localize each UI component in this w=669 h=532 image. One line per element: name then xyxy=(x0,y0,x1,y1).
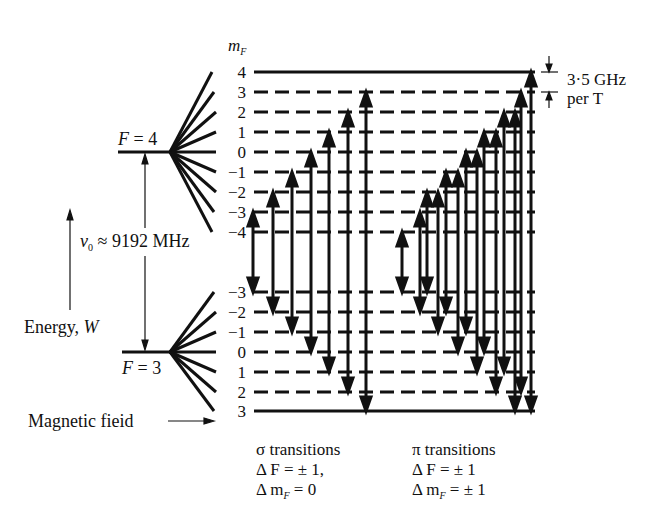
magnetic-field-label: Magnetic fieid xyxy=(28,412,133,430)
pi-transitions xyxy=(397,72,536,411)
mF-label: 1 xyxy=(216,364,246,381)
magnetic-field-arrow xyxy=(168,418,214,424)
lower-hyperfine-fan xyxy=(122,292,216,411)
mF-label: 3 xyxy=(216,84,246,101)
sigma-rule-dF: Δ F = ± 1, xyxy=(256,460,340,480)
mF-label: −2 xyxy=(216,304,246,321)
lower-F-label: F = 3 xyxy=(122,359,161,377)
dm-value: = 0 xyxy=(290,480,317,499)
F-symbol: F xyxy=(122,358,133,378)
mF-label: −1 xyxy=(216,324,246,341)
mF-label: −3 xyxy=(216,204,246,221)
hyperfine-frequency-label: ν0 ≈ 9192 MHz xyxy=(80,232,189,253)
dm-value: = ± 1 xyxy=(446,480,486,499)
sigma-rule-dm: Δ mF = 0 xyxy=(256,480,340,506)
upper-hyperfine-fan xyxy=(118,72,216,232)
mF-label: 4 xyxy=(216,64,246,81)
mF-label: 0 xyxy=(216,144,246,161)
F-symbol: F xyxy=(118,129,129,149)
scale-note-line1: 3·5 GHz xyxy=(567,70,626,89)
nu-symbol: ν xyxy=(80,231,88,251)
sigma-transitions xyxy=(248,92,371,411)
pi-rule-dF: Δ F = ± 1 xyxy=(412,460,496,480)
mF-header-subscript: F xyxy=(240,46,246,57)
scale-note-line2: per T xyxy=(567,89,626,108)
mF-label: 2 xyxy=(216,104,246,121)
energy-axis-arrow xyxy=(67,210,73,310)
dm-prefix: Δ m xyxy=(412,480,439,499)
mF-level-lines xyxy=(254,72,535,411)
energy-axis-label: Energy, W xyxy=(24,318,98,336)
pi-rule-dm: Δ mF = ± 1 xyxy=(412,480,496,506)
sigma-legend-title: σ transitions xyxy=(256,440,340,460)
mF-label: −2 xyxy=(216,184,246,201)
F-value: = 3 xyxy=(133,358,161,378)
mF-header: mF xyxy=(228,37,246,57)
mF-label: −1 xyxy=(216,164,246,181)
energy-label-text: Energy, xyxy=(24,317,83,337)
scale-bracket xyxy=(541,56,558,108)
mF-label: −4 xyxy=(216,224,246,241)
mF-label: −3 xyxy=(216,284,246,301)
mF-label: 0 xyxy=(216,344,246,361)
mF-label: 3 xyxy=(216,403,246,420)
mF-label: 1 xyxy=(216,124,246,141)
pi-legend: π transitions Δ F = ± 1 Δ mF = ± 1 xyxy=(412,440,496,506)
mF-label: 2 xyxy=(216,384,246,401)
F-value: = 4 xyxy=(129,129,157,149)
energy-symbol: W xyxy=(83,317,98,337)
mF-header-symbol: m xyxy=(228,36,240,55)
sigma-legend: σ transitions Δ F = ± 1, Δ mF = 0 xyxy=(256,440,340,506)
frequency-value: ≈ 9192 MHz xyxy=(93,231,189,251)
pi-legend-title: π transitions xyxy=(412,440,496,460)
upper-F-label: F = 4 xyxy=(118,130,157,148)
dm-prefix: Δ m xyxy=(256,480,283,499)
scale-note: 3·5 GHz per T xyxy=(567,70,626,108)
